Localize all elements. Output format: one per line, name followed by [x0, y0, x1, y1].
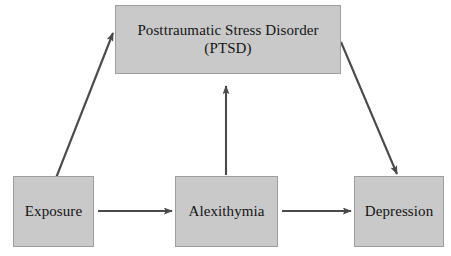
node-ptsd-label: Posttraumatic Stress Disorder (PTSD) [137, 22, 318, 57]
node-depression: Depression [354, 176, 444, 247]
arrow-exposure-to-ptsd [56, 33, 113, 178]
node-exposure: Exposure [13, 176, 94, 247]
node-exposure-label: Exposure [25, 203, 82, 221]
node-depression-label: Depression [365, 203, 434, 221]
node-alexithymia-label: Alexithymia [188, 203, 264, 221]
node-ptsd: Posttraumatic Stress Disorder (PTSD) [115, 5, 341, 74]
node-alexithymia: Alexithymia [175, 176, 278, 247]
diagram-canvas: Posttraumatic Stress Disorder (PTSD) Exp… [0, 0, 451, 256]
arrow-ptsd-to-depression [341, 42, 397, 174]
